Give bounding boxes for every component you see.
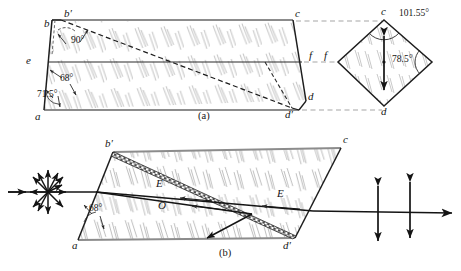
- angle-label-71-5: 71.5°: [37, 90, 57, 100]
- vertex-label-b: b: [44, 18, 50, 29]
- figure-svg: [0, 0, 461, 271]
- ray-label-E-left: E: [156, 178, 163, 189]
- vertex-label-d-prime: d′: [285, 109, 293, 120]
- vertex-label-a: a: [35, 111, 41, 122]
- panel-caption-a: (a): [198, 111, 210, 122]
- panel-b-vertex-label-a: a: [72, 240, 78, 251]
- panel-caption-b: (b): [219, 248, 231, 259]
- endface-vertex-label-f: f: [324, 50, 327, 61]
- endface-vertex-label-d: d: [381, 106, 387, 117]
- angle-label-101-55: 101.55°: [399, 9, 429, 19]
- vertex-label-b-prime: b′: [64, 8, 72, 19]
- ray-label-E-right: E: [277, 188, 284, 199]
- unpolarized-starburst-icon: [8, 170, 66, 214]
- vertex-label-e: e: [26, 55, 31, 66]
- endface-vertex-label-c: c: [381, 6, 386, 17]
- panel-a-end-face: [338, 20, 432, 106]
- figure-root: b b′ c e f a d′ d 90° 68° 71.5° c f d 10…: [0, 0, 461, 271]
- panel-b-angle-label-68: 68°: [89, 204, 102, 214]
- panel-b-vertex-label-b-prime: b′: [105, 138, 113, 149]
- angle-label-78-5: 78.5°: [392, 55, 412, 65]
- panel-b-vertex-label-c: c: [343, 134, 348, 145]
- panel-b-vertex-label-d-prime: d′: [283, 240, 291, 251]
- ray-label-O: O: [158, 200, 166, 211]
- vertex-label-d: d: [308, 91, 314, 102]
- vertex-label-f: f: [309, 50, 312, 61]
- vertex-label-c: c: [295, 8, 300, 19]
- angle-label-68-a: 68°: [60, 74, 73, 84]
- angle-label-90: 90°: [71, 36, 84, 46]
